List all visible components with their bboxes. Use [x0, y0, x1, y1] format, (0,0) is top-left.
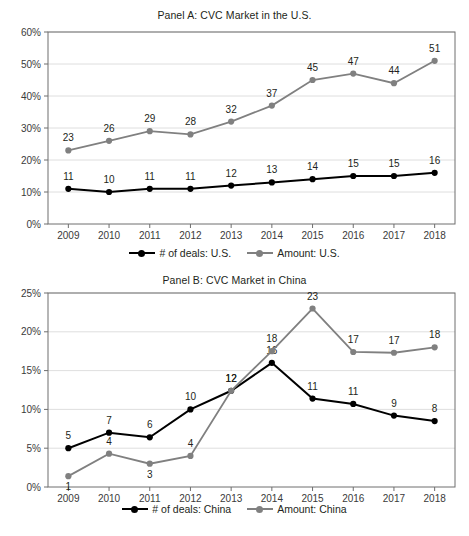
data-point — [65, 186, 71, 192]
data-point — [187, 453, 193, 459]
data-label: 12 — [226, 168, 238, 179]
y-axis-tick-label: 25% — [21, 288, 41, 299]
x-axis-tick-label: 2016 — [342, 230, 365, 241]
data-point — [228, 119, 234, 125]
data-point — [391, 173, 397, 179]
data-label: 29 — [144, 113, 156, 124]
chart-page: Panel A: CVC Market in the U.S. 0%10%20%… — [0, 0, 469, 536]
legend-item-amount-china[interactable]: Amount: China — [247, 503, 346, 515]
y-axis-tick-label: 15% — [21, 365, 41, 376]
legend-item-deals-china[interactable]: # of deals: China — [122, 503, 231, 515]
x-axis-tick-label: 2013 — [220, 230, 243, 241]
x-axis-tick-label: 2009 — [57, 230, 80, 241]
data-point — [350, 349, 356, 355]
data-label: 44 — [388, 65, 400, 76]
y-axis-tick-label: 0% — [27, 219, 42, 230]
data-label: 15 — [348, 158, 360, 169]
data-label: 9 — [391, 398, 397, 409]
data-point — [432, 418, 438, 424]
data-point — [391, 80, 397, 86]
y-axis-tick-label: 30% — [21, 123, 41, 134]
data-point — [432, 58, 438, 64]
line-marker-gray-icon — [247, 504, 273, 514]
x-axis-tick-label: 2012 — [179, 230, 202, 241]
legend-label-amount-us: Amount: U.S. — [277, 247, 339, 259]
data-point — [432, 170, 438, 176]
data-label: 4 — [106, 436, 112, 447]
data-label: 5 — [66, 430, 72, 441]
data-point — [350, 71, 356, 77]
data-point — [309, 176, 315, 182]
data-point — [269, 103, 275, 109]
data-label: 13 — [266, 164, 278, 175]
legend-item-amount-us[interactable]: Amount: U.S. — [247, 247, 339, 259]
data-label: 18 — [429, 329, 441, 340]
data-label: 1 — [66, 481, 72, 492]
x-axis-tick-label: 2011 — [139, 230, 161, 241]
data-label: 17 — [348, 334, 360, 345]
panel-a: Panel A: CVC Market in the U.S. 0%10%20%… — [0, 0, 469, 268]
data-point — [65, 445, 71, 451]
data-label: 11 — [145, 171, 156, 182]
data-point — [65, 473, 71, 479]
data-label: 26 — [103, 123, 115, 134]
series-line — [68, 173, 434, 192]
data-label: 11 — [348, 386, 359, 397]
y-axis-tick-label: 5% — [27, 443, 42, 454]
data-label: 4 — [188, 438, 194, 449]
data-point — [309, 305, 315, 311]
data-label: 37 — [266, 88, 278, 99]
data-point — [228, 388, 234, 394]
line-marker-dark-icon — [122, 504, 148, 514]
panel-b: Panel B: CVC Market in China 0%5%10%15%2… — [0, 268, 469, 536]
data-point — [309, 77, 315, 83]
data-label: 23 — [307, 291, 319, 302]
data-label: 11 — [185, 171, 196, 182]
data-label: 17 — [388, 335, 400, 346]
data-label: 32 — [226, 104, 238, 115]
data-label: 15 — [388, 158, 400, 169]
data-label: 7 — [106, 415, 112, 426]
x-axis-tick-label: 2014 — [261, 230, 284, 241]
data-point — [65, 147, 71, 153]
data-label: 51 — [429, 43, 441, 54]
series-line — [68, 309, 434, 477]
y-axis-tick-label: 0% — [27, 482, 42, 493]
data-point — [269, 348, 275, 354]
data-point — [269, 179, 275, 185]
data-point — [147, 461, 153, 467]
line-marker-gray-icon — [247, 248, 273, 258]
y-axis-tick-label: 10% — [21, 404, 41, 415]
legend-label-deals-china: # of deals: China — [152, 503, 231, 515]
panel-b-legend: # of deals: China Amount: China — [0, 503, 469, 515]
legend-label-amount-china: Amount: China — [277, 503, 346, 515]
data-point — [187, 186, 193, 192]
data-label: 10 — [103, 174, 115, 185]
data-point — [106, 138, 112, 144]
panel-b-plot: 0%5%10%15%20%25%200920102011201220132014… — [0, 268, 469, 493]
data-label: 47 — [348, 56, 360, 67]
data-label: 16 — [429, 155, 441, 166]
panel-a-plot: 0%10%20%30%40%50%60%20092010201120122013… — [0, 0, 469, 240]
data-point — [147, 186, 153, 192]
data-point — [391, 350, 397, 356]
series-line — [68, 61, 434, 151]
y-axis-tick-label: 60% — [21, 27, 41, 38]
panel-b-svg: 0%5%10%15%20%25%200920102011201220132014… — [0, 268, 469, 504]
data-point — [187, 131, 193, 137]
data-label: 28 — [185, 116, 197, 127]
y-axis-tick-label: 40% — [21, 91, 41, 102]
data-point — [432, 344, 438, 350]
y-axis-tick-label: 10% — [21, 187, 41, 198]
y-axis-tick-label: 50% — [21, 59, 41, 70]
series-line — [68, 363, 434, 448]
plot-border — [48, 293, 455, 487]
legend-item-deals-us[interactable]: # of deals: U.S. — [129, 247, 231, 259]
data-label: 10 — [185, 391, 197, 402]
legend-label-deals-us: # of deals: U.S. — [159, 247, 231, 259]
data-point — [350, 173, 356, 179]
y-axis-tick-label: 20% — [21, 326, 41, 337]
data-point — [228, 183, 234, 189]
data-label: 11 — [63, 171, 74, 182]
x-axis-tick-label: 2015 — [301, 230, 324, 241]
